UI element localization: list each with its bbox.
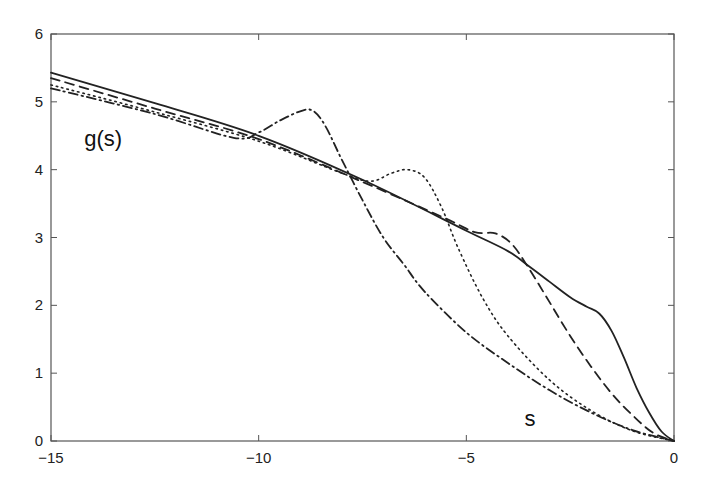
x-tick-label: 0 xyxy=(670,449,678,466)
y-axis-tick-labels: 0123456 xyxy=(35,25,43,449)
x-tick-label: −5 xyxy=(458,449,475,466)
y-tick-label: 3 xyxy=(35,229,43,246)
y-tick-label: 1 xyxy=(35,364,43,381)
plot-area xyxy=(51,34,674,441)
y-tick-label: 0 xyxy=(35,432,43,449)
x-axis-tick-labels: −15−10−50 xyxy=(38,449,678,466)
x-axis-annotation: s xyxy=(524,406,535,431)
y-tick-label: 4 xyxy=(35,161,43,178)
x-tick-label: −10 xyxy=(246,449,271,466)
y-tick-label: 5 xyxy=(35,93,43,110)
line-chart: −15−10−50 0123456 g(s) s xyxy=(0,0,712,496)
y-tick-label: 2 xyxy=(35,296,43,313)
y-axis-annotation: g(s) xyxy=(84,126,122,151)
x-tick-label: −15 xyxy=(38,449,63,466)
y-tick-label: 6 xyxy=(35,25,43,42)
